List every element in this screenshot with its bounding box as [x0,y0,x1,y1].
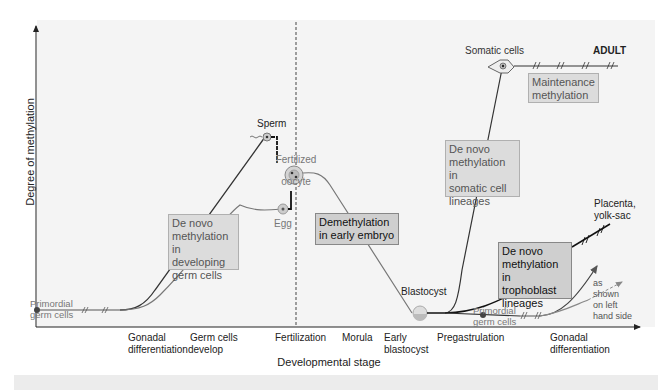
x-axis-label: Developmental stage [0,356,658,368]
label-placenta-yolk-sac: Placenta,yolk-sac [594,198,636,222]
box-demethylation-early-embryo: Demethylation in early embryo [315,213,399,245]
box-maintenance-methylation: Maintenance methylation [528,73,599,103]
box-germ-cell-de-novo-methylation: De novo methylation in developing germ c… [168,214,239,270]
label-egg: Egg [274,218,292,230]
x-tick-pregastrulation: Pregastrulation [437,332,504,344]
x-tick-morula: Morula [342,332,373,344]
y-axis-label: Degree of methylation [24,77,36,227]
label-somatic-cells: Somatic cells [465,45,524,57]
egg-icon [278,204,288,214]
x-tick-early-blastocyst: Earlyblastocyst [384,332,428,356]
label-sperm: Sperm [257,118,286,130]
label-as-shown-on-left: as shown on left hand side [593,278,632,322]
box-somatic-de-novo-methylation: De novo methylation in somatic cell line… [445,140,520,197]
x-tick-gonadal-left: Gonadaldifferentiation [128,332,188,356]
somatic-cell-icon [488,60,514,73]
label-fertilized-oocyte: Fertilizedoocyte [268,154,324,188]
label-adult: ADULT [593,45,626,57]
x-tick-germ-cells-develop: Germ cellsdevelop [190,332,238,356]
sperm-icon [250,133,271,141]
x-tick-gonadal-right: Gonadaldifferentiation [550,332,610,356]
label-primordial-germ-cells-left: Primordialgerm cells [30,298,73,320]
x-tick-fertilization: Fertilization [275,332,326,344]
blastocyst-icon [413,306,427,321]
box-trophoblast-de-novo-methylation: De novo methylation in trophoblast linea… [498,242,572,299]
label-blastocyst: Blastocyst [401,286,447,298]
